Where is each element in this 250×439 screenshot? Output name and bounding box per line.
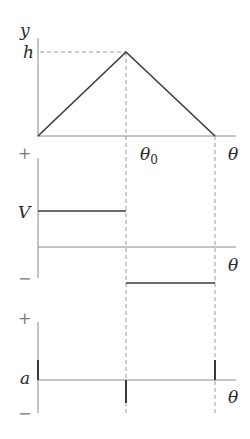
- y-axis-label: y: [19, 20, 30, 40]
- v-label: V: [18, 202, 32, 222]
- plus-label: +: [18, 309, 31, 328]
- theta-axis-label: θ: [228, 255, 238, 275]
- plus-label: +: [18, 144, 31, 163]
- cam-motion-diagram: y h θ0 θ + V − θ + a − θ: [0, 0, 250, 439]
- a-label: a: [20, 368, 30, 388]
- acceleration-chart: + a − θ: [18, 309, 238, 423]
- velocity-chart: + V − θ: [18, 144, 238, 288]
- h-label: h: [23, 42, 34, 62]
- theta-axis-label: θ: [228, 144, 238, 164]
- theta0-label: θ0: [140, 144, 158, 167]
- minus-label: −: [18, 404, 31, 423]
- minus-label: −: [18, 269, 31, 288]
- displacement-chart: y h θ0 θ: [19, 20, 238, 167]
- theta-axis-label: θ: [228, 387, 238, 407]
